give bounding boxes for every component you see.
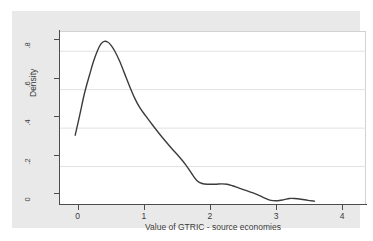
x-axis-line xyxy=(59,204,367,205)
x-tick-label: 3 xyxy=(266,211,286,221)
x-tick-label: 4 xyxy=(332,211,352,221)
y-tick-label: 0 xyxy=(23,193,32,207)
x-tick-mark xyxy=(78,205,79,210)
y-tick-label: .2 xyxy=(23,154,32,168)
y-tick-mark xyxy=(54,39,59,40)
x-tick-mark xyxy=(144,205,145,210)
density-curve xyxy=(75,41,314,201)
gridlines xyxy=(60,51,366,166)
x-tick-mark xyxy=(210,205,211,210)
x-tick-mark xyxy=(276,205,277,210)
y-tick-mark xyxy=(54,78,59,79)
density-curve-layer xyxy=(75,41,314,201)
y-tick-mark xyxy=(54,116,59,117)
x-tick-label: 2 xyxy=(200,211,220,221)
x-tick-label: 0 xyxy=(68,211,88,221)
y-tick-label: .4 xyxy=(23,116,32,130)
x-tick-label: 1 xyxy=(134,211,154,221)
y-axis-label: Density xyxy=(28,69,38,97)
plot-area xyxy=(60,31,366,204)
y-axis-line xyxy=(59,30,60,205)
y-tick-label: .8 xyxy=(23,39,32,53)
plot-svg xyxy=(60,32,366,205)
y-tick-mark xyxy=(54,155,59,156)
x-axis-label: Value of GTRIC - source economies xyxy=(60,222,366,232)
graph-panel: 0.2.4.6.8 01234 Density Value of GTRIC -… xyxy=(12,11,360,228)
y-tick-mark xyxy=(54,193,59,194)
density-plot-figure: 0.2.4.6.8 01234 Density Value of GTRIC -… xyxy=(0,0,373,241)
x-tick-mark xyxy=(342,205,343,210)
